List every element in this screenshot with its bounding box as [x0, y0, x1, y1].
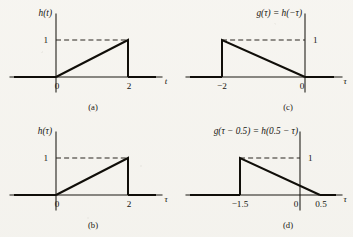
- signal-ramp-a: [56, 40, 128, 77]
- plot-b-geometry: [10, 132, 162, 210]
- plot-b: h(τ) 1 0 2 τ (b): [0, 118, 177, 237]
- xtick-d-1: 0: [294, 199, 299, 209]
- plot-a: h(t) 1 0 2 t (a): [0, 0, 177, 119]
- panel-b: h(τ) 1 0 2 τ (b): [0, 118, 177, 237]
- level-label-a: 1: [43, 35, 48, 45]
- plot-a-geometry: [10, 14, 162, 92]
- plot-title-d: g(τ − 0.5) = h(0.5 − τ): [214, 126, 298, 137]
- signal-ramp-c: [222, 40, 305, 77]
- axis-label-a: h(t): [39, 8, 52, 19]
- panel-d: g(τ − 0.5) = h(0.5 − τ) 1 −1.5 0 0.5 τ (…: [176, 118, 353, 237]
- level-label-b: 1: [43, 153, 48, 163]
- plot-d: g(τ − 0.5) = h(0.5 − τ) 1 −1.5 0 0.5 τ (…: [176, 118, 353, 237]
- xaxis-var-b: τ: [164, 194, 168, 204]
- xtick-a-0: 0: [55, 81, 60, 91]
- xaxis-var-d: τ: [343, 194, 347, 204]
- caption-c: (c): [283, 102, 293, 112]
- xaxis-var-a: t: [165, 76, 168, 86]
- xtick-c-1: 0: [300, 81, 305, 91]
- xtick-b-0: 0: [55, 199, 60, 209]
- panel-a: h(t) 1 0 2 t (a): [0, 0, 177, 119]
- plot-c: g(τ) = h(−τ) 1 −2 0 τ (c): [176, 0, 353, 119]
- xtick-d-0: −1.5: [232, 199, 249, 209]
- signal-ramp-b: [56, 158, 128, 195]
- caption-d: (d): [283, 220, 293, 230]
- xtick-a-1: 2: [127, 81, 132, 91]
- level-label-d: 1: [308, 153, 313, 163]
- level-label-c: 1: [313, 35, 318, 45]
- xtick-b-1: 2: [127, 199, 132, 209]
- xtick-c-0: −2: [217, 81, 227, 91]
- xtick-d-2: 0.5: [315, 199, 327, 209]
- panel-c: g(τ) = h(−τ) 1 −2 0 τ (c): [176, 0, 353, 119]
- plot-c-geometry: [186, 14, 342, 92]
- xaxis-var-c: τ: [343, 76, 347, 86]
- figure-canvas: h(t) 1 0 2 t (a) g(τ) = h(−τ) 1 −2 0 τ (…: [0, 0, 353, 237]
- signal-ramp-d: [240, 158, 320, 195]
- plot-title-c: g(τ) = h(−τ): [256, 8, 302, 19]
- caption-b: (b): [88, 220, 98, 230]
- axis-label-b: h(τ): [38, 126, 52, 137]
- caption-a: (a): [88, 102, 98, 112]
